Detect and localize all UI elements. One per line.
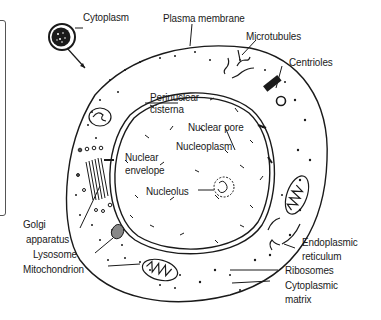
lysosome-icon (111, 224, 124, 238)
label-plasma-membrane: Plasma membrane (163, 12, 245, 24)
label-centrioles: Centrioles (289, 56, 333, 68)
label-golgi-line2: apparatus (26, 233, 69, 245)
microtubules-icon (224, 50, 254, 78)
label-nucleolus: Nucleolus (146, 185, 189, 197)
label-er-line1: Endoplasmic (302, 236, 358, 248)
label-cytoplasmic-matrix-line1: Cytoplasmic (285, 279, 338, 291)
label-mitochondrion: Mitochondrion (23, 263, 84, 275)
mitochondrion-upper-left (89, 108, 111, 126)
golgi-apparatus-icon (86, 158, 108, 200)
label-cytoplasmic-matrix-line2: matrix (285, 293, 311, 305)
mitochondrion-lower (140, 256, 180, 285)
label-cytoplasm: Cytoplasm (83, 11, 129, 23)
cytoplasm-inset-icon (49, 24, 85, 68)
label-er-line2: reticulum (302, 250, 341, 262)
label-perinuclear-cisterna-line1: Perinuclear (150, 91, 199, 103)
mitochondrion-right (281, 173, 313, 217)
label-microtubules: Microtubules (246, 30, 301, 42)
vesicles (77, 146, 112, 212)
label-nuclear-envelope-line1: Nuclear (125, 151, 158, 163)
label-nuclear-pore: Nuclear pore (188, 121, 244, 133)
centrioles-icon (263, 75, 285, 105)
label-golgi-line1: Golgi (23, 218, 46, 230)
label-lysosome: Lysosome (33, 248, 77, 260)
label-ribosomes: Ribosomes (285, 264, 334, 276)
label-nucleoplasm: Nucleoplasm (176, 140, 232, 152)
label-nuclear-envelope-line2: envelope (125, 164, 164, 176)
label-perinuclear-cisterna-line2: cisterna (150, 103, 184, 115)
nucleolus-icon (214, 177, 234, 197)
endoplasmic-reticulum-icon (268, 218, 300, 250)
